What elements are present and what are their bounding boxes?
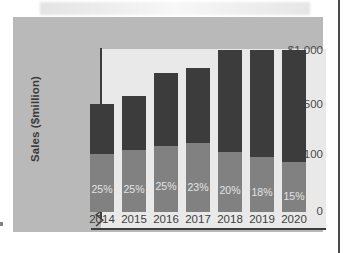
bar-2019-lower-segment [250, 157, 274, 212]
data-label-2017: 23% [183, 181, 213, 193]
scan-watermark [40, 2, 310, 15]
bar-2020-lower-segment [282, 162, 306, 212]
bar-2016-upper-segment [154, 73, 178, 146]
scan-artifact-speck [0, 222, 3, 226]
bar-2014-upper-segment [90, 104, 114, 154]
x-tick-label-2020: 2020 [275, 213, 313, 225]
bar-2014[interactable] [90, 104, 114, 212]
bar-2015-lower-segment [122, 150, 146, 212]
bar-2019-upper-segment [250, 50, 274, 157]
bar-2015-upper-segment [122, 96, 146, 150]
data-label-2015: 25% [119, 183, 149, 195]
bar-2017-lower-segment [186, 143, 210, 212]
bar-2018-lower-segment [218, 152, 242, 212]
page-edge-rule [338, 0, 340, 253]
y-axis-title: Sales ($million) [29, 59, 41, 179]
chart-screenshot: Sales ($million) $1,000 $500 $100 0 [0, 0, 346, 253]
data-label-2019: 18% [247, 186, 277, 198]
bar-2017-upper-segment [186, 68, 210, 143]
bar-2020[interactable] [282, 50, 306, 212]
data-label-2018: 20% [215, 184, 245, 196]
bar-2016-lower-segment [154, 146, 178, 212]
figure-panel: Sales ($million) $1,000 $500 $100 0 [13, 17, 323, 232]
data-label-2016: 25% [151, 180, 181, 192]
x-axis-line [91, 228, 326, 230]
data-label-2014: 25% [87, 183, 117, 195]
bar-2018-upper-segment [218, 50, 242, 152]
bar-2020-upper-segment [282, 50, 306, 162]
data-label-2020: 15% [279, 190, 309, 202]
